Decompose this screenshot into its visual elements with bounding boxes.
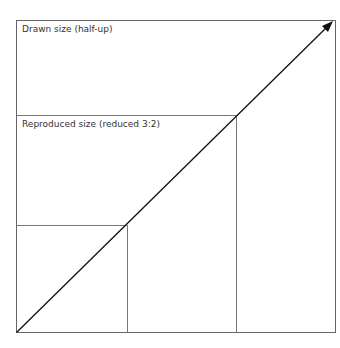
drawn-size-label: Drawn size (half-up) bbox=[22, 24, 112, 34]
diagonal-line bbox=[17, 28, 327, 333]
reproduced-size-label: Reproduced size (reduced 3:2) bbox=[22, 119, 160, 129]
size-diagram bbox=[0, 0, 340, 348]
